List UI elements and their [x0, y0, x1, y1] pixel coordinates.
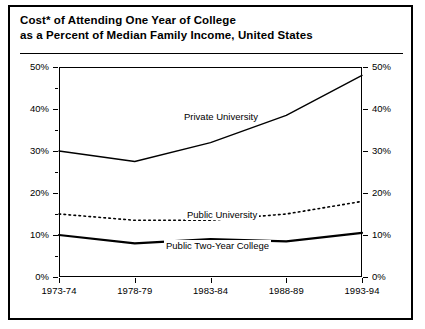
y-axis-label-left: 30%: [15, 146, 49, 156]
x-axis-tick: [135, 278, 136, 283]
y-axis-label-right: 0%: [372, 272, 406, 282]
y-axis-label-left: 10%: [15, 230, 49, 240]
y-axis-minor-tick: [55, 88, 58, 89]
x-axis-tick: [59, 278, 60, 283]
chart-title: Cost* of Attending One Year of College a…: [20, 13, 403, 49]
y-axis-tick-left: [53, 277, 58, 278]
y-axis-label-right: 10%: [372, 230, 406, 240]
y-axis-tick-left: [53, 109, 58, 110]
x-axis-label: 1973-74: [29, 286, 89, 296]
x-axis-label: 1978-79: [105, 286, 165, 296]
y-axis-tick-right: [363, 67, 368, 68]
series-label-public-two-year: Public Two-Year College: [164, 240, 271, 251]
y-axis-tick-right: [363, 277, 368, 278]
y-axis-label-left: 40%: [15, 104, 49, 114]
figure-panel: Cost* of Attending One Year of College a…: [8, 5, 413, 320]
y-axis-label-left: 50%: [15, 62, 49, 72]
x-axis-label: 1993-94: [332, 286, 392, 296]
y-axis-label-right: 30%: [372, 146, 406, 156]
y-axis-label-left: 0%: [15, 272, 49, 282]
y-axis-label-left: 20%: [15, 188, 49, 198]
y-axis-minor-tick: [55, 256, 58, 257]
title-divider: [20, 53, 403, 54]
y-axis-label-right: 40%: [372, 104, 406, 114]
y-axis-tick-left: [53, 193, 58, 194]
y-axis-tick-left: [53, 67, 58, 68]
y-axis-minor-tick: [55, 172, 58, 173]
y-axis-tick-right: [363, 193, 368, 194]
y-axis-minor-tick: [55, 130, 58, 131]
y-axis-label-right: 50%: [372, 62, 406, 72]
plot-area: 0%0%10%10%20%20%30%30%40%40%50%50%1973-7…: [59, 67, 362, 277]
x-axis-tick: [362, 278, 363, 283]
x-axis-label: 1983-84: [181, 286, 241, 296]
x-axis-tick: [286, 278, 287, 283]
y-axis-minor-tick: [55, 214, 58, 215]
x-axis-label: 1988-89: [256, 286, 316, 296]
y-axis-tick-right: [363, 151, 368, 152]
y-axis-tick-left: [53, 235, 58, 236]
title-line-2: as a Percent of Median Family Income, Un…: [20, 28, 403, 43]
series-label-public-university: Public University: [185, 209, 259, 220]
y-axis-tick-left: [53, 151, 58, 152]
x-axis-tick: [211, 278, 212, 283]
y-axis-tick-right: [363, 109, 368, 110]
y-axis-tick-right: [363, 235, 368, 236]
y-axis-label-right: 20%: [372, 188, 406, 198]
series-label-private-university: Private University: [182, 111, 260, 122]
title-line-1: Cost* of Attending One Year of College: [20, 13, 403, 28]
